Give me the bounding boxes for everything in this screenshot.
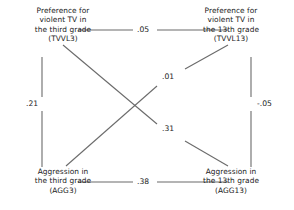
node-agg13-line-1: Aggression in <box>168 167 294 176</box>
node-tvvl13-line-3: the 13th grade <box>168 25 294 34</box>
node-tvvl13-line-2: violent TV in <box>168 15 294 24</box>
coefficient-left: .21 <box>24 99 40 108</box>
node-tvvl13-line-1: Preference for <box>168 6 294 15</box>
node-tvvl3: Preference for violent TV in the third g… <box>0 6 126 44</box>
node-agg13-line-2: the 13th grade <box>168 176 294 185</box>
path-line-diag-lower-lower-segment <box>185 141 228 166</box>
path-line-diag-upper-upper-segment <box>185 45 228 69</box>
coefficient-bottom: .38 <box>135 177 151 186</box>
node-tvvl3-line-1: Preference for <box>0 6 126 15</box>
coefficient-diagonal-upper: .01 <box>160 72 176 81</box>
node-tvvl3-line-4: (TVVL3) <box>0 34 126 43</box>
node-tvvl13-line-4: (TVVL13) <box>168 34 294 43</box>
coefficient-right: -.05 <box>255 99 274 108</box>
coefficient-diagonal-lower: .31 <box>160 124 176 133</box>
coefficient-top: .05 <box>135 25 151 34</box>
node-agg3-line-1: Aggression in <box>0 167 126 176</box>
cross-lagged-panel-diagram: Preference for violent TV in the third g… <box>0 0 294 210</box>
path-line-diag-upper-lower-segment <box>66 86 157 166</box>
node-agg3: Aggression in the third grade (AGG3) <box>0 167 126 195</box>
node-tvvl13: Preference for violent TV in the 13th gr… <box>168 6 294 44</box>
node-agg13: Aggression in the 13th grade (AGG13) <box>168 167 294 195</box>
path-line-diag-lower-upper-segment <box>63 45 157 124</box>
node-agg13-line-3: (AGG13) <box>168 186 294 195</box>
node-tvvl3-line-3: the third grade <box>0 25 126 34</box>
node-tvvl3-line-2: violent TV in <box>0 15 126 24</box>
node-agg3-line-3: (AGG3) <box>0 186 126 195</box>
node-agg3-line-2: the third grade <box>0 176 126 185</box>
